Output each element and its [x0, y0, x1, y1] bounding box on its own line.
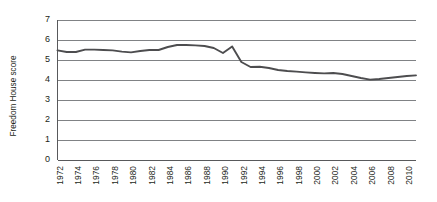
y-axis-title: Freedom House score: [9, 55, 18, 136]
x-tick-label: 1976: [91, 166, 101, 185]
x-tick-label: 2010: [404, 166, 414, 185]
x-tick-label: 2006: [367, 166, 377, 185]
x-tick-label: 1984: [165, 166, 175, 185]
chart-figure: 76543210 1972197419761978198019821984198…: [0, 0, 437, 202]
y-tick-labels-group: 76543210: [45, 14, 50, 164]
freedom-house-score-line-chart: 76543210 1972197419761978198019821984198…: [0, 0, 437, 202]
y-tick-label: 4: [45, 74, 50, 84]
x-tick-label: 1990: [220, 166, 230, 185]
plot-frame: [58, 20, 417, 161]
y-tick-label: 6: [45, 34, 50, 44]
x-tick-label: 2008: [386, 166, 396, 185]
y-tick-label: 5: [45, 54, 50, 64]
x-tick-label: 2002: [330, 166, 340, 185]
x-tick-label: 1982: [147, 166, 157, 185]
x-tick-label: 1978: [110, 166, 120, 185]
gridlines-group: [58, 21, 417, 161]
y-tick-label: 3: [45, 94, 50, 104]
data-series-line: [58, 45, 417, 80]
x-tick-label: 1998: [294, 166, 304, 185]
x-tick-labels-group: 1972197419761978198019821984198619881990…: [55, 166, 414, 185]
x-tick-label: 1992: [239, 166, 249, 185]
x-tick-label: 2000: [312, 166, 322, 185]
x-tick-label: 1972: [55, 166, 65, 185]
x-tick-label: 1986: [183, 166, 193, 185]
y-tick-label: 2: [45, 114, 50, 124]
x-tick-label: 1988: [202, 166, 212, 185]
x-tick-label: 1994: [257, 166, 267, 185]
x-tick-label: 1980: [128, 166, 138, 185]
y-tick-label: 1: [45, 134, 50, 144]
x-tick-label: 2004: [349, 166, 359, 185]
y-tick-label: 7: [45, 14, 50, 24]
y-tick-label: 0: [45, 154, 50, 164]
x-tick-label: 1996: [275, 166, 285, 185]
x-tick-label: 1974: [73, 166, 83, 185]
